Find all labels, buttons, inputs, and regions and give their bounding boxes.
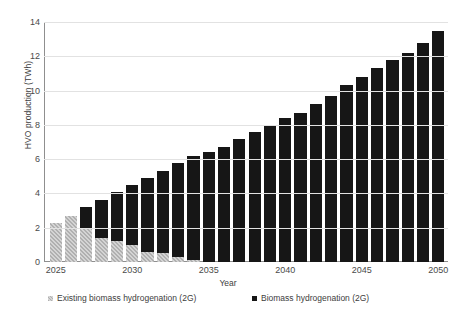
bar-segment-existing-biomass — [65, 216, 77, 262]
y-axis-tick-label: 4 — [18, 188, 40, 198]
legend-item-existing-biomass: Existing biomass hydrogenation (2G) — [48, 293, 196, 303]
bar-group — [417, 43, 429, 262]
bar-segment-biomass — [111, 192, 123, 241]
bar-segment-biomass — [233, 139, 245, 262]
bar-group — [325, 96, 337, 262]
bar-group — [141, 178, 153, 262]
bar-group — [65, 216, 77, 262]
bar-group — [126, 185, 138, 262]
bar-segment-biomass — [279, 118, 291, 262]
bar-group — [402, 53, 414, 262]
y-axis-tick-label: 2 — [18, 223, 40, 233]
bar-segment-existing-biomass — [126, 245, 138, 262]
bar-segment-biomass — [402, 53, 414, 262]
y-axis-tick-labels: 02468101214 — [16, 0, 40, 319]
y-axis-tick-label: 6 — [18, 154, 40, 164]
bar-segment-biomass — [157, 171, 169, 252]
y-axis-tick-label: 14 — [18, 17, 40, 27]
x-axis-tick-label: 2035 — [199, 265, 219, 275]
hvo-production-stacked-bar-chart: HVO production (TWh) 02468101214 2025203… — [0, 0, 456, 319]
bar-group — [356, 77, 368, 262]
bar-segment-biomass — [203, 152, 215, 262]
bar-group — [80, 207, 92, 262]
bar-segment-biomass — [80, 207, 92, 229]
bar-segment-biomass — [95, 200, 107, 238]
y-axis-tick-label: 8 — [18, 120, 40, 130]
x-axis-title: Year — [0, 278, 456, 288]
legend-item-biomass: Biomass hydrogenation (2G) — [252, 293, 369, 303]
bar-group — [172, 163, 184, 262]
bar-group — [310, 104, 322, 262]
bar-segment-existing-biomass — [141, 252, 153, 262]
bar-group — [187, 156, 199, 262]
bar-group — [340, 85, 352, 262]
bar-segment-existing-biomass — [80, 229, 92, 262]
bar-segment-existing-biomass — [172, 257, 184, 262]
gridline — [44, 193, 448, 194]
bar-segment-biomass — [417, 43, 429, 262]
x-axis-tick-label: 2050 — [428, 265, 448, 275]
x-axis-tick-label: 2045 — [352, 265, 372, 275]
bar-group — [157, 171, 169, 262]
y-axis-tick-label: 0 — [18, 257, 40, 267]
bar-segment-existing-biomass — [157, 253, 169, 262]
gridline — [44, 159, 448, 160]
bar-segment-biomass — [356, 77, 368, 262]
bar-group — [294, 113, 306, 262]
bar-segment-biomass — [340, 85, 352, 262]
x-axis-tick-labels: 202520302035204020452050 — [44, 265, 448, 279]
bar-segment-biomass — [141, 178, 153, 252]
gridline — [44, 22, 448, 23]
bar-group — [203, 152, 215, 262]
bar-segment-existing-biomass — [95, 238, 107, 262]
bar-group — [218, 147, 230, 262]
gridline — [44, 91, 448, 92]
bar-segment-existing-biomass — [111, 241, 123, 262]
bar-segment-biomass — [187, 156, 199, 261]
x-axis-tick-label: 2040 — [275, 265, 295, 275]
gray-hatched-square-icon — [48, 296, 53, 301]
gridline — [44, 125, 448, 126]
x-axis-tick-label: 2025 — [46, 265, 66, 275]
bar-segment-biomass — [172, 163, 184, 257]
bar-segment-biomass — [325, 96, 337, 262]
gridline — [44, 56, 448, 57]
y-axis-tick-label: 10 — [18, 86, 40, 96]
plot-area — [44, 22, 448, 262]
bar-group — [279, 118, 291, 262]
bar-group — [371, 68, 383, 262]
bar-group — [233, 139, 245, 262]
bar-group — [249, 132, 261, 262]
bar-group — [95, 200, 107, 262]
x-axis-tick-label: 2030 — [122, 265, 142, 275]
bar-segment-biomass — [218, 147, 230, 262]
bar-segment-biomass — [294, 113, 306, 262]
legend-item-label: Biomass hydrogenation (2G) — [261, 293, 369, 303]
bar-segment-biomass — [249, 132, 261, 262]
chart-legend: Existing biomass hydrogenation (2G) Biom… — [0, 293, 456, 311]
black-square-icon — [252, 296, 257, 301]
bar-segment-biomass — [371, 68, 383, 262]
bar-segment-existing-biomass — [187, 260, 199, 262]
y-axis-tick-label: 12 — [18, 51, 40, 61]
gridline — [44, 228, 448, 229]
bars-layer — [44, 22, 448, 262]
bar-segment-biomass — [310, 104, 322, 262]
legend-item-label: Existing biomass hydrogenation (2G) — [57, 293, 196, 303]
